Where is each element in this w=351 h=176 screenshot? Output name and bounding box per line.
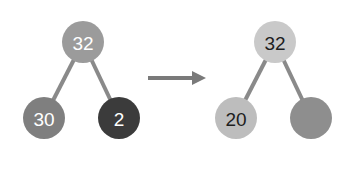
after-node-left: 20 [215,97,257,139]
before-node-root: 32 [62,21,104,63]
before-node-right: 2 [98,97,140,139]
after-node-root: 32 [254,21,296,63]
before-node-left-label: 30 [33,109,54,130]
arrow-head [192,71,206,85]
after-node-right-circle [290,97,332,139]
after-node-root-label: 32 [264,33,285,54]
after-tree: 3220 [215,21,332,139]
heap-diagram: 32302 3220 [0,0,351,176]
transform-arrow-icon [148,71,206,85]
before-tree: 32302 [23,21,140,139]
before-node-right-label: 2 [114,109,125,130]
after-node-right [290,97,332,139]
before-node-left: 30 [23,97,65,139]
before-node-root-label: 32 [72,33,93,54]
after-node-left-label: 20 [225,109,246,130]
